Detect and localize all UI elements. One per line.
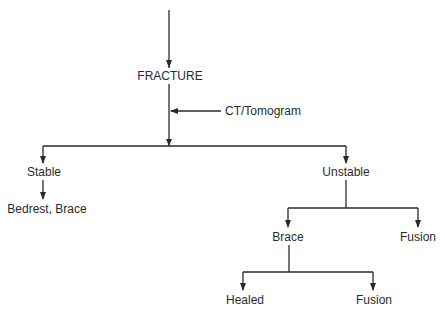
node-ct-tomogram: CT/Tomogram xyxy=(225,104,301,118)
node-brace: Brace xyxy=(272,230,303,244)
node-fusion-right: Fusion xyxy=(400,230,436,244)
connector-lines xyxy=(0,0,445,316)
node-unstable: Unstable xyxy=(322,165,369,179)
node-stable: Stable xyxy=(27,165,61,179)
node-fusion-bottom: Fusion xyxy=(356,293,392,307)
node-fracture: FRACTURE xyxy=(137,69,202,83)
node-healed: Healed xyxy=(226,293,264,307)
node-bedrest-brace: Bedrest, Brace xyxy=(7,202,86,216)
